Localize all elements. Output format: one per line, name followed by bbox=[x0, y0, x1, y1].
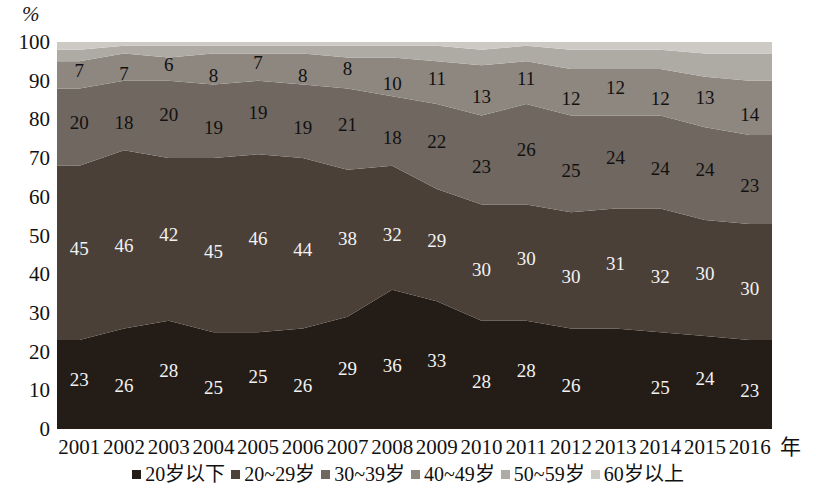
x-axis-tick-2001: 2001 bbox=[58, 437, 100, 458]
legend-item-1[interactable]: 20岁以下 bbox=[132, 464, 225, 484]
legend-item-6[interactable]: 60岁以上 bbox=[591, 464, 684, 484]
value-label-20岁以下-2014: 25 bbox=[651, 377, 670, 396]
value-label-20岁以下-2016: 23 bbox=[740, 381, 759, 400]
y-axis-tick-100: 100 bbox=[0, 32, 50, 53]
y-axis-tick-20: 20 bbox=[0, 342, 50, 363]
value-label-20岁以下-2004: 25 bbox=[204, 377, 223, 396]
value-label-30~39岁-2011: 26 bbox=[517, 140, 536, 159]
legend-item-5[interactable]: 50~59岁 bbox=[501, 464, 585, 484]
x-axis-tick-2011: 2011 bbox=[506, 437, 547, 458]
y-axis-tick-10: 10 bbox=[0, 380, 50, 401]
legend-item-4[interactable]: 40~49岁 bbox=[411, 464, 495, 484]
x-axis-tick-2003: 2003 bbox=[148, 437, 190, 458]
legend-label: 20岁以下 bbox=[145, 464, 225, 484]
value-label-30~39岁-2013: 24 bbox=[606, 147, 625, 166]
value-label-20~29岁-2015: 30 bbox=[695, 264, 714, 283]
value-label-20岁以下-2011: 28 bbox=[517, 360, 536, 379]
y-axis-tick-70: 70 bbox=[0, 148, 50, 169]
x-axis-tick-2008: 2008 bbox=[371, 437, 413, 458]
value-label-40~49岁-2011: 11 bbox=[517, 68, 535, 87]
x-axis-tick-2007: 2007 bbox=[326, 437, 368, 458]
x-axis-tick-2016: 2016 bbox=[729, 437, 771, 458]
legend-label: 30~39岁 bbox=[334, 464, 405, 484]
value-label-30~39岁-2014: 24 bbox=[651, 158, 670, 177]
value-label-20岁以下-2005: 25 bbox=[249, 366, 268, 385]
value-label-30~39岁-2015: 24 bbox=[695, 159, 714, 178]
value-label-30~39岁-2009: 22 bbox=[427, 132, 446, 151]
value-label-20岁以下-2010: 28 bbox=[472, 371, 491, 390]
value-label-40~49岁-2006: 8 bbox=[298, 66, 308, 85]
value-label-40~49岁-2007: 8 bbox=[343, 58, 353, 77]
value-label-20~29岁-2005: 46 bbox=[249, 229, 268, 248]
legend-item-2[interactable]: 20~29岁 bbox=[231, 464, 315, 484]
value-label-20~29岁-2011: 30 bbox=[517, 248, 536, 267]
value-label-40~49岁-2016: 14 bbox=[740, 104, 759, 123]
legend-label: 20~29岁 bbox=[244, 464, 315, 484]
legend-swatch-icon bbox=[411, 470, 420, 479]
legend-item-3[interactable]: 30~39岁 bbox=[321, 464, 405, 484]
value-label-40~49岁-2003: 6 bbox=[164, 55, 174, 74]
x-axis-unit-label: 年 bbox=[780, 437, 801, 458]
value-label-20~29岁-2001: 45 bbox=[70, 238, 89, 257]
value-label-20岁以下-2007: 29 bbox=[338, 358, 357, 377]
value-label-40~49岁-2002: 7 bbox=[119, 64, 129, 83]
legend-swatch-icon bbox=[231, 470, 240, 479]
x-axis-tick-2002: 2002 bbox=[103, 437, 145, 458]
chart-legend: 20岁以下20~29岁30~39岁40~49岁50~59岁60岁以上 bbox=[0, 464, 816, 484]
value-label-30~39岁-2001: 20 bbox=[70, 113, 89, 132]
value-label-20岁以下-2003: 28 bbox=[159, 360, 178, 379]
value-label-30~39岁-2006: 19 bbox=[293, 118, 312, 137]
x-axis-tick-2005: 2005 bbox=[237, 437, 279, 458]
value-label-30~39岁-2002: 18 bbox=[115, 112, 134, 131]
legend-swatch-icon bbox=[132, 470, 141, 479]
value-label-20岁以下-2009: 33 bbox=[427, 351, 446, 370]
value-label-30~39岁-2005: 19 bbox=[249, 103, 268, 122]
value-label-40~49岁-2009: 11 bbox=[428, 68, 446, 87]
value-label-40~49岁-2012: 12 bbox=[561, 89, 580, 108]
y-axis-tick-0: 0 bbox=[0, 419, 50, 440]
value-label-40~49岁-2013: 12 bbox=[606, 78, 625, 97]
x-axis-tick-2015: 2015 bbox=[684, 437, 726, 458]
value-label-20岁以下-2002: 26 bbox=[115, 375, 134, 394]
x-axis-tick-2006: 2006 bbox=[282, 437, 324, 458]
value-label-20岁以下-2001: 23 bbox=[70, 370, 89, 389]
x-axis-tick-2009: 2009 bbox=[416, 437, 458, 458]
x-axis-tick-2012: 2012 bbox=[550, 437, 592, 458]
value-label-20~29岁-2007: 38 bbox=[338, 229, 357, 248]
value-label-30~39岁-2004: 19 bbox=[204, 118, 223, 137]
value-label-20岁以下-2006: 26 bbox=[293, 375, 312, 394]
value-label-40~49岁-2005: 7 bbox=[253, 53, 263, 72]
legend-swatch-icon bbox=[591, 470, 600, 479]
y-axis-tick-80: 80 bbox=[0, 109, 50, 130]
x-axis-tick-2013: 2013 bbox=[595, 437, 637, 458]
y-axis-unit-label: % bbox=[22, 2, 40, 27]
legend-swatch-icon bbox=[321, 470, 330, 479]
value-label-20~29岁-2012: 30 bbox=[561, 267, 580, 286]
y-axis-tick-30: 30 bbox=[0, 303, 50, 324]
value-label-20~29岁-2016: 30 bbox=[740, 278, 759, 297]
legend-swatch-icon bbox=[501, 470, 510, 479]
value-label-40~49岁-2014: 12 bbox=[651, 89, 670, 108]
value-label-20~29岁-2013: 31 bbox=[606, 254, 625, 273]
x-axis-tick-2010: 2010 bbox=[461, 437, 503, 458]
value-label-20~29岁-2006: 44 bbox=[293, 240, 312, 259]
value-label-20岁以下-2008: 36 bbox=[383, 356, 402, 375]
x-axis-tick-2014: 2014 bbox=[639, 437, 681, 458]
value-label-30~39岁-2003: 20 bbox=[159, 105, 178, 124]
value-label-20~29岁-2002: 46 bbox=[115, 236, 134, 255]
value-label-30~39岁-2007: 21 bbox=[338, 115, 357, 134]
stacked-area-chart: % 1009080706050403020100 232628252526293… bbox=[0, 0, 816, 490]
y-axis-tick-40: 40 bbox=[0, 264, 50, 285]
value-label-40~49岁-2001: 7 bbox=[75, 60, 85, 79]
value-label-20岁以下-2015: 24 bbox=[695, 368, 714, 387]
value-label-40~49岁-2010: 13 bbox=[472, 87, 491, 106]
value-label-30~39岁-2012: 25 bbox=[561, 160, 580, 179]
value-label-20岁以下-2012: 26 bbox=[561, 375, 580, 394]
legend-label: 60岁以上 bbox=[604, 464, 684, 484]
value-label-30~39岁-2010: 23 bbox=[472, 157, 491, 176]
value-label-40~49岁-2008: 10 bbox=[383, 73, 402, 92]
legend-label: 40~49岁 bbox=[424, 464, 495, 484]
value-label-20~29岁-2004: 45 bbox=[204, 242, 223, 261]
y-axis-tick-90: 90 bbox=[0, 71, 50, 92]
y-axis-tick-50: 50 bbox=[0, 226, 50, 247]
